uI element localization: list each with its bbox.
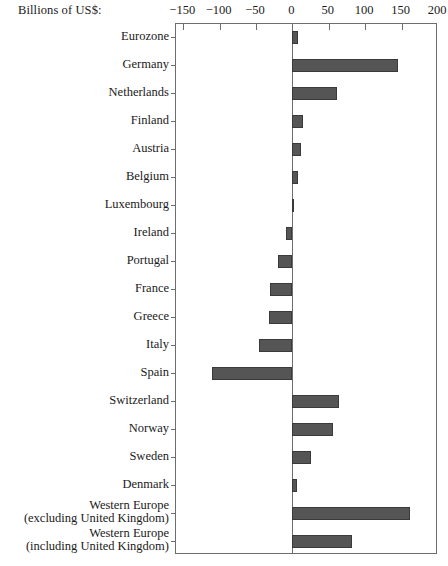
category-label-line1: Western Europe [89,526,169,540]
bar-row [176,387,436,415]
horizontal-bar-chart: Billions of US$: −150−100−50050100150200… [0,0,448,566]
category-label: Western Europe(excluding United Kingdom) [0,499,169,525]
axis-caption: Billions of US$: [18,3,102,18]
category-tick-mark [171,373,176,374]
category-label-line1: Greece [134,309,169,323]
x-tick-label-0: −150 [169,3,195,18]
category-tick-mark [171,177,176,178]
bar-row [176,80,436,108]
category-tick-mark [171,345,176,346]
category-tick-mark [171,37,176,38]
bar-row [176,136,436,164]
category-tick-mark [171,317,176,318]
bar [270,283,293,296]
category-tick-mark [171,93,176,94]
bar [212,367,292,380]
x-tick-label-4: 50 [322,3,335,18]
bar [292,143,301,156]
category-tick-mark [171,457,176,458]
x-tick-label-7: 200 [428,3,447,18]
category-label: Spain [0,366,169,379]
bar-row [176,220,436,248]
category-tick-mark [171,289,176,290]
bar [292,451,310,464]
bar-row [176,164,436,192]
category-label: Greece [0,310,169,323]
category-label-line1: Ireland [134,225,169,239]
category-label: Denmark [0,478,169,491]
bar [292,479,296,492]
category-label-line2: (including United Kingdom) [0,540,169,553]
bar-row [176,471,436,499]
x-tick-label-1: −100 [206,3,232,18]
category-tick-mark [171,401,176,402]
bar [292,31,297,44]
category-label-line1: Switzerland [109,393,169,407]
bar-row [176,443,436,471]
bar [259,339,292,352]
category-labels: EurozoneGermanyNetherlandsFinlandAustria… [0,23,169,554]
bar-row [176,52,436,80]
x-tick-label-5: 100 [355,3,374,18]
bar [292,395,339,408]
category-tick-mark [171,233,176,234]
bar [292,59,398,72]
category-label-line1: Spain [141,365,169,379]
category-label: Switzerland [0,394,169,407]
bar-row [176,499,436,527]
category-tick-mark [171,429,176,430]
category-tick-mark [171,205,176,206]
bar-row [176,108,436,136]
x-tick-label-3: 0 [288,3,294,18]
category-label-line1: Netherlands [109,85,169,99]
category-tick-mark [171,513,176,514]
category-label: Portugal [0,254,169,267]
x-tick-label-6: 150 [391,3,410,18]
category-label-line1: Portugal [127,253,169,267]
category-label: Norway [0,422,169,435]
category-tick-mark [171,541,176,542]
category-tick-mark [171,261,176,262]
plot-area [175,23,437,554]
category-label: Italy [0,338,169,351]
category-label-line1: France [135,281,169,295]
category-label: Eurozone [0,30,169,43]
category-label-line2: (excluding United Kingdom) [0,512,169,525]
bar [269,311,292,324]
bar-row [176,527,436,555]
category-label-line1: Austria [132,141,169,155]
bar-row [176,359,436,387]
bar-row [176,24,436,52]
bar-row [176,303,436,331]
bar-row [176,248,436,276]
category-tick-mark [171,121,176,122]
bar [292,423,333,436]
category-label-line1: Eurozone [121,29,169,43]
bar [292,507,409,520]
bar [292,115,302,128]
category-label: Netherlands [0,86,169,99]
bar [292,87,336,100]
category-label-line1: Italy [146,337,169,351]
category-label: Sweden [0,450,169,463]
category-label-line1: Western Europe [89,498,169,512]
category-label: France [0,282,169,295]
category-label-line1: Luxembourg [105,197,169,211]
bar-row [176,415,436,443]
category-label: Austria [0,142,169,155]
bar [286,227,293,240]
bar [278,255,293,268]
category-label-line1: Belgium [126,169,169,183]
bar-row [176,276,436,304]
category-tick-mark [171,65,176,66]
category-label: Germany [0,58,169,71]
bar [292,199,294,212]
category-tick-mark [171,485,176,486]
category-label-line1: Sweden [129,449,169,463]
category-label: Western Europe(including United Kingdom) [0,527,169,553]
category-label: Finland [0,114,169,127]
category-tick-mark [171,149,176,150]
category-label-line1: Norway [129,421,169,435]
bar [292,171,298,184]
category-label-line1: Denmark [122,477,169,491]
